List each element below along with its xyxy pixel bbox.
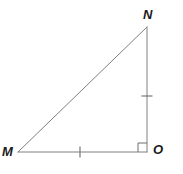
geometry-figure: M N O — [0, 0, 183, 174]
vertex-label-n: N — [143, 8, 152, 21]
side-mn-hypotenuse — [18, 27, 147, 152]
vertex-label-o: O — [153, 143, 163, 156]
vertex-label-m: M — [2, 145, 13, 158]
right-angle-marker-o — [138, 143, 147, 152]
